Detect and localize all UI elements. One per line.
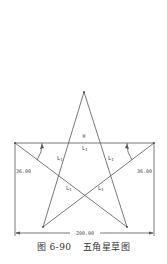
star-sketch: H L1 L1 L1 L1 L1 36.00 36.00 200.00 [0,0,167,264]
equal-label-right: L1 [108,155,114,162]
sketch-canvas: H L1 L1 L1 L1 L1 36.00 36.00 200.00 [0,0,167,264]
equal-label-lower-right: L1 [98,185,104,192]
width-dimension: 200.00 [76,230,94,236]
star-edge-apex-right [84,92,127,227]
left-angle-arc [37,143,42,160]
horizontal-constraint-label: H [82,133,85,139]
right-angle-dimension: 36.00 [137,168,152,174]
equal-label-lower-left: L1 [66,185,72,192]
dimension-arrow-left-icon [15,232,20,235]
equal-label-left: L1 [57,155,63,162]
figure-title: 五角星草图 [83,242,131,252]
left-angle-arrow-icon [40,144,44,149]
right-angle-arc [127,143,132,160]
left-angle-dimension: 36.00 [16,168,31,174]
right-angle-arrow-icon [125,144,129,149]
star-edge-apex-left [43,92,84,227]
figure-number: 图 6-90 [37,242,72,252]
figure-caption: 图 6-90 五角星草图 [0,240,167,253]
equal-label-top: L1 [82,145,88,152]
dimension-arrow-right-icon [149,232,154,235]
